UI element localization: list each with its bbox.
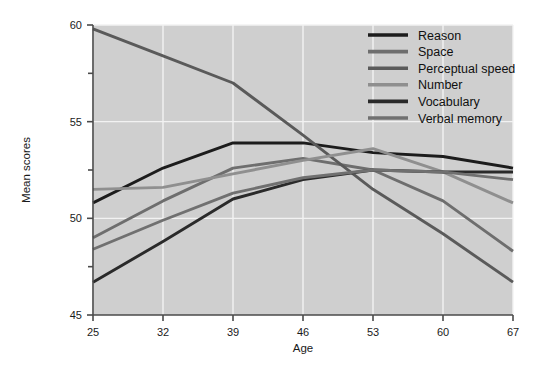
legend-label-perceptual-speed: Perceptual speed	[418, 62, 515, 76]
x-axis-tick-label: 25	[87, 326, 99, 338]
y-axis-tick-label: 60	[70, 19, 82, 31]
legend-label-number: Number	[418, 78, 462, 92]
legend-label-verbal-memory: Verbal memory	[418, 112, 503, 126]
y-axis-tick-label: 45	[70, 309, 82, 321]
y-axis-tick-label: 50	[70, 212, 82, 224]
x-axis-tick-label: 46	[297, 326, 309, 338]
y-axis-tick-label: 55	[70, 116, 82, 128]
legend-label-vocabulary: Vocabulary	[418, 95, 481, 109]
x-axis-tick-label: 60	[437, 326, 449, 338]
legend-label-reason: Reason	[418, 29, 461, 43]
y-axis-title: Mean scores	[20, 137, 32, 203]
x-axis-tick-label: 39	[227, 326, 239, 338]
legend-label-space: Space	[418, 45, 453, 59]
x-axis-tick-label: 53	[367, 326, 379, 338]
x-axis-title: Age	[293, 342, 313, 354]
x-axis-tick-label: 32	[157, 326, 169, 338]
x-axis-tick-label: 67	[507, 326, 519, 338]
line-chart-figure: 4550556025323946536067 Age Mean scores R…	[0, 0, 533, 372]
